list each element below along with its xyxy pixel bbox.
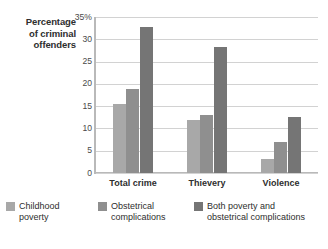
bar[interactable] [126, 89, 139, 173]
y-axis-tick-label: 5 [64, 146, 92, 155]
bar[interactable] [140, 27, 153, 173]
y-axis-tick-label: 30 [64, 35, 92, 44]
bar[interactable] [261, 159, 274, 173]
legend-item-obstetrical-complications[interactable]: Obstetrical complications [98, 201, 166, 224]
bar[interactable] [274, 142, 287, 173]
gridline [96, 173, 318, 174]
legend-swatch-icon [6, 202, 15, 211]
y-axis-tick-label: 35% [64, 13, 92, 22]
bar[interactable] [288, 117, 301, 173]
legend-item-label: Obstetrical complications [111, 201, 166, 224]
bar-group-total-crime [113, 17, 153, 173]
legend-item-both-poverty-and-obstetrical-complications[interactable]: Both poverty and obstetrical complicatio… [194, 201, 305, 224]
legend-item-childhood-poverty[interactable]: Childhood poverty [6, 201, 60, 224]
chart-legend: Childhood poverty Obstetrical complicati… [6, 201, 326, 245]
bar[interactable] [200, 115, 213, 173]
y-axis-tick-label: 10 [64, 124, 92, 133]
bar-group-violence [261, 17, 301, 173]
legend-swatch-icon [194, 202, 203, 211]
bar-group-thievery [187, 17, 227, 173]
x-axis-tick-label: Violence [221, 178, 328, 188]
plot-area [96, 17, 318, 173]
bar[interactable] [187, 120, 200, 173]
legend-item-label: Childhood poverty [19, 201, 60, 224]
bar-chart-figure: Percentage of criminal offenders 0510152… [0, 0, 328, 249]
y-axis-tick-label: 0 [64, 169, 92, 178]
bar[interactable] [214, 47, 227, 173]
bar[interactable] [113, 104, 126, 173]
legend-item-label: Both poverty and obstetrical complicatio… [207, 201, 305, 224]
y-axis-tick-label: 20 [64, 79, 92, 88]
y-axis-tick-label: 15 [64, 102, 92, 111]
y-axis-tick-label: 25 [64, 57, 92, 66]
legend-swatch-icon [98, 202, 107, 211]
